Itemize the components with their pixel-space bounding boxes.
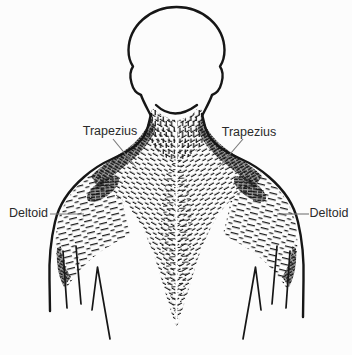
deltoid-right-label: Deltoid bbox=[310, 206, 349, 220]
trapezius-right-label: Trapezius bbox=[222, 125, 276, 139]
anatomy-diagram: Trapezius Trapezius Deltoid Deltoid bbox=[0, 0, 352, 355]
muscle-diagram-svg: Trapezius Trapezius Deltoid Deltoid bbox=[0, 0, 352, 355]
trapezius-left-label: Trapezius bbox=[83, 124, 137, 138]
deltoid-left-label: Deltoid bbox=[9, 206, 48, 220]
